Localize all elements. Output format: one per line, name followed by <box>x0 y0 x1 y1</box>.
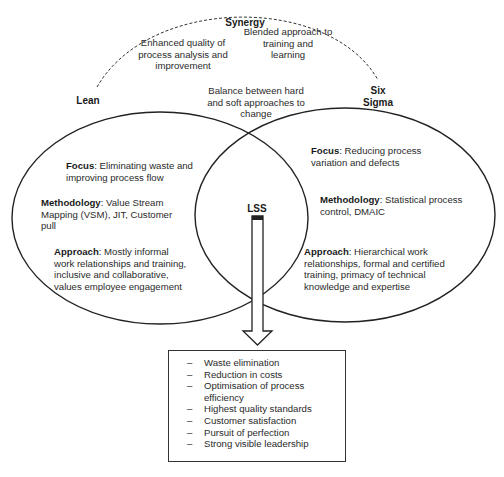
text-line: training and <box>228 38 348 50</box>
synergy-point-blended: Blended approach to training and learnin… <box>228 26 348 61</box>
lean-methodology: Methodology: Value Stream Mapping (VSM),… <box>41 197 211 232</box>
methodology-key: Methodology <box>41 197 101 208</box>
text-line: Mapping (VSM), JIT, Customer <box>41 209 211 221</box>
focus-key: Focus <box>66 160 94 171</box>
dash-bullet: – <box>187 357 192 369</box>
text-line: Waste elimination <box>204 357 279 368</box>
list-item: –Pursuit of perfection <box>187 427 347 439</box>
text-line: : Hierarchical work <box>349 246 428 257</box>
dash-bullet: – <box>187 403 192 415</box>
text-line: Blended approach to <box>228 26 348 38</box>
dash-bullet: – <box>187 427 192 439</box>
text-line: relationships, formal and certified <box>304 258 484 270</box>
text-line: variation and defects <box>311 157 461 169</box>
six-sigma-methodology: Methodology: Statistical process control… <box>320 194 480 217</box>
text-line: : Eliminating waste and <box>94 160 193 171</box>
text-line: Reduction in costs <box>204 369 282 380</box>
six-sigma-focus: Focus: Reducing process variation and de… <box>311 145 461 168</box>
text-line: control, DMAIC <box>320 206 480 218</box>
text-line: improvement <box>118 60 248 72</box>
dash-bullet: – <box>187 415 192 427</box>
lean-approach: Approach: Mostly informal work relations… <box>54 246 224 292</box>
list-item: –Highest quality standards <box>187 403 347 415</box>
list-item: –Customer satisfaction <box>187 415 347 427</box>
dash-bullet: – <box>187 380 192 392</box>
lean-label: Lean <box>68 95 108 107</box>
lss-arrow <box>243 216 272 345</box>
text-line: and soft approaches to <box>196 97 316 109</box>
list-item: –Reduction in costs <box>187 369 347 381</box>
text-line: Six <box>355 85 401 97</box>
six-sigma-approach: Approach: Hierarchical work relationship… <box>304 246 484 292</box>
six-sigma-label: Six Sigma <box>355 85 401 109</box>
text-line: : Statistical process <box>380 194 463 205</box>
text-line: Customer satisfaction <box>204 415 296 426</box>
outcomes-list: –Waste elimination –Reduction in costs –… <box>187 357 347 450</box>
text-line: : Mostly informal <box>99 246 169 257</box>
methodology-key: Methodology <box>320 194 380 205</box>
text-line: values employee engagement <box>54 281 224 293</box>
text-line: change <box>196 108 316 120</box>
text-line: Sigma <box>355 97 401 109</box>
lean-focus: Focus: Eliminating waste and improving p… <box>66 160 226 183</box>
text-line: knowledge and expertise <box>304 281 484 293</box>
synergy-point-balance: Balance between hard and soft approaches… <box>196 85 316 120</box>
approach-key: Approach <box>304 246 349 257</box>
text-line: inclusive and collaborative, <box>54 269 224 281</box>
text-line: work relationships and training, <box>54 258 224 270</box>
text-line: Balance between hard <box>196 85 316 97</box>
focus-key: Focus <box>311 145 339 156</box>
text-line: Pursuit of perfection <box>204 427 289 438</box>
lss-outcomes-box: –Waste elimination –Reduction in costs –… <box>168 350 346 462</box>
lss-label: LSS <box>242 203 272 215</box>
text-line: improving process flow <box>66 172 226 184</box>
list-item: –Strong visible leadership <box>187 438 347 450</box>
list-item: –Optimisation of processefficiency <box>187 380 347 403</box>
text-line: learning <box>228 49 348 61</box>
text-line: Optimisation of process <box>204 380 304 391</box>
dash-bullet: – <box>187 438 192 450</box>
dash-bullet: – <box>187 369 192 381</box>
text-line: Strong visible leadership <box>204 438 309 449</box>
text-line: training, primacy of technical <box>304 269 484 281</box>
text-line: : Value Stream <box>101 197 164 208</box>
text-line: : Reducing process <box>339 145 421 156</box>
list-item: –Waste elimination <box>187 357 347 369</box>
approach-key: Approach <box>54 246 99 257</box>
text-line: efficiency <box>204 392 244 403</box>
text-line: Highest quality standards <box>204 403 312 414</box>
text-line: pull <box>41 220 211 232</box>
